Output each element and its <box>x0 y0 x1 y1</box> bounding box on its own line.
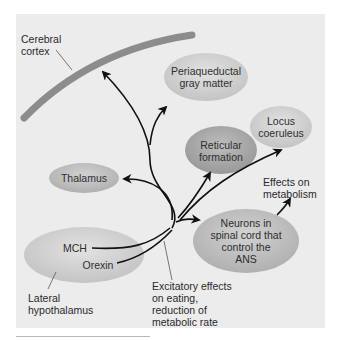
excitatory-effects-label: Excitatory effects on eating, reduction … <box>152 280 232 328</box>
lateral-hypothalamus-ellipse <box>24 227 144 283</box>
arrow-to-cortex <box>103 72 175 228</box>
excitatory-leader-line <box>164 241 172 280</box>
arrow-to-periaqueductal <box>150 107 166 145</box>
spinal-neurons-node: Neurons in spinal cord that control the … <box>210 217 281 265</box>
periaqueductal-node: Periaqueductal gray matter <box>171 65 241 89</box>
locus-coeruleus-node: Locus coeruleus <box>258 115 304 139</box>
reticular-formation-node: Reticular formation <box>199 139 243 163</box>
arrow-to-metabolism <box>277 199 290 215</box>
effects-on-metabolism-label: Effects on metabolism <box>263 176 317 200</box>
orexin-node: Orexin <box>83 259 114 271</box>
cerebral-cortex-label: Cerebral cortex <box>21 33 61 57</box>
lateral-hypothalamus-label: Lateral hypothalamus <box>28 292 93 316</box>
arrow-to-thalamus <box>124 179 172 220</box>
mch-node: MCH <box>63 242 87 254</box>
thalamus-node: Thalamus <box>61 172 107 184</box>
